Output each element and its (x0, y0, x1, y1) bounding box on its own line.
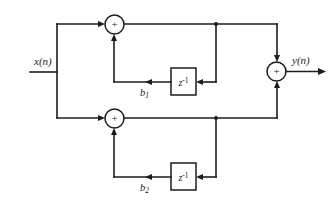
arrow-output (318, 68, 326, 75)
delay-block-top-label: z-1 (171, 77, 196, 88)
junction-bottom-branch (214, 116, 218, 120)
delay-bottom-exponent: -1 (182, 171, 188, 180)
arrow-into-delay-bottom (196, 174, 203, 180)
arrow-into-adder-bottom-left (98, 115, 105, 121)
junction-top-branch (214, 22, 218, 26)
arrow-into-delay-top (196, 79, 203, 85)
arrow-coef-b2 (145, 174, 152, 180)
output-label: y(n) (292, 55, 310, 66)
arrow-into-output-adder-top (274, 55, 280, 62)
arrow-into-output-adder-bottom (274, 81, 280, 88)
coef-b2-subscript: 2 (145, 186, 149, 195)
arrow-into-adder-top-bottom (111, 34, 117, 41)
arrow-coef-b1 (145, 79, 152, 85)
diagram-canvas (0, 0, 335, 220)
delay-block-bottom-label: z-1 (171, 172, 196, 183)
coefficient-b2-label: b2 (140, 183, 149, 194)
input-label: x(n) (34, 56, 52, 67)
adder-top-plus-icon: + (109, 19, 120, 30)
arrow-into-adder-top-left (98, 21, 105, 27)
arrow-into-adder-bottom-bottom (111, 128, 117, 135)
adder-output-plus-icon: + (271, 66, 282, 77)
coefficient-b1-label: b1 (140, 88, 149, 99)
block-diagram-figure: x(n) y(n) + + + z-1 z-1 b1 b2 (0, 0, 335, 220)
delay-top-exponent: -1 (182, 76, 188, 85)
coef-b1-subscript: 1 (145, 91, 149, 100)
adder-bottom-plus-icon: + (109, 113, 120, 124)
